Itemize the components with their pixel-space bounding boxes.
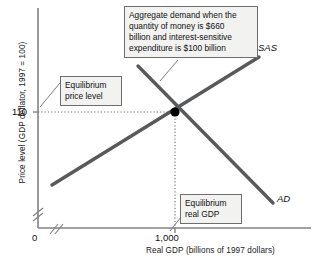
equilibrium-real-gdp-callout-line-1: Equilibrium bbox=[185, 198, 237, 209]
ad-sas-equilibrium-figure: Price level (GDP deflator, 1997 = 100) R… bbox=[0, 0, 316, 268]
origin-tick-label: 0 bbox=[32, 232, 37, 243]
ad-curve bbox=[138, 66, 273, 203]
ad-callout-leader-line bbox=[160, 60, 178, 81]
equilibrium-price-level-callout: Equilibrium price level bbox=[60, 76, 122, 106]
equilibrium-real-gdp-callout: Equilibrium real GDP bbox=[180, 194, 242, 224]
aggregate-demand-callout-line-3: billion and interest-sensitive bbox=[129, 32, 253, 43]
aggregate-demand-callout-line-2: quantity of money is $660 bbox=[129, 21, 253, 32]
aggregate-demand-callout: Aggregate demand when the quantity of mo… bbox=[124, 6, 258, 58]
aggregate-demand-callout-line-4: expenditure is $100 billion bbox=[129, 43, 253, 54]
equilibrium-point bbox=[170, 107, 179, 116]
x-axis-break-icon bbox=[50, 224, 63, 234]
sas-curve-label: SAS bbox=[258, 42, 277, 53]
price-callout-leader-line bbox=[40, 83, 60, 107]
equilibrium-real-gdp-callout-line-2: real GDP bbox=[185, 209, 237, 220]
ad-curve-label: AD bbox=[277, 193, 290, 204]
aggregate-demand-callout-line-1: Aggregate demand when the bbox=[129, 10, 253, 21]
equilibrium-price-level-callout-line-1: Equilibrium bbox=[65, 80, 117, 91]
x-tick-label-1000: 1,000 bbox=[155, 232, 179, 243]
y-tick-label-110: 110 bbox=[12, 106, 27, 117]
equilibrium-price-level-callout-line-2: price level bbox=[65, 91, 117, 102]
x-axis-title: Real GDP (billions of 1997 dollars) bbox=[146, 246, 275, 255]
